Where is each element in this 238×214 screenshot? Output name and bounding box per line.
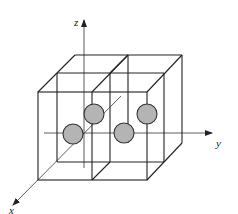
y-axis-label: y <box>216 138 221 149</box>
x-axis-label: x <box>9 205 14 214</box>
atom-1 <box>84 104 104 124</box>
x-axis <box>13 96 121 205</box>
cell-frame <box>38 55 182 180</box>
atom-4 <box>114 123 134 143</box>
atom-3 <box>137 104 157 124</box>
crystal-diagram <box>0 0 238 214</box>
z-axis-label: z <box>74 17 78 28</box>
atom-2 <box>63 124 83 144</box>
